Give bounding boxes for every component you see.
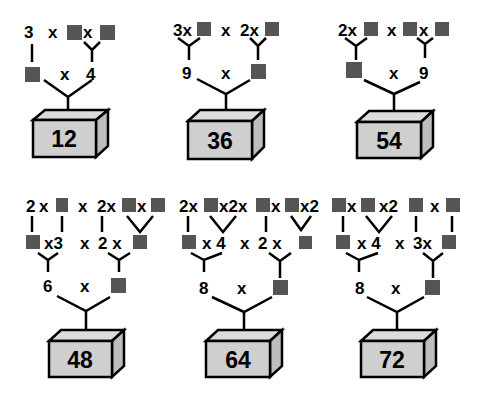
blank-square-icon[interactable] xyxy=(285,198,299,212)
times-sign: x xyxy=(387,21,397,40)
product-box: 64 xyxy=(206,330,282,377)
product-value: 72 xyxy=(379,347,405,373)
product-value: 48 xyxy=(67,347,93,373)
blank-square-icon[interactable] xyxy=(446,198,460,212)
branch-line xyxy=(108,253,130,272)
factor-2x: 2x xyxy=(240,21,259,40)
product-value: 64 xyxy=(225,347,251,373)
factor-2x: 2x xyxy=(338,21,357,40)
blank-square-icon[interactable] xyxy=(56,198,68,212)
blank-square-icon[interactable] xyxy=(299,236,312,249)
times-sign: x xyxy=(78,197,88,216)
blank-square-icon[interactable] xyxy=(251,64,266,79)
factor-2x: 2x xyxy=(179,197,198,216)
times-sign: x xyxy=(221,64,231,83)
branch-line xyxy=(345,38,367,60)
blank-square-icon[interactable] xyxy=(273,280,288,295)
times-sign: x xyxy=(240,234,250,253)
factor-x3: x3 xyxy=(44,234,63,253)
product-value: 36 xyxy=(207,128,233,154)
times-sign: x xyxy=(39,197,49,216)
times-sign: x xyxy=(389,64,399,83)
factor-6: 6 xyxy=(43,277,52,296)
times-sign: x xyxy=(271,197,281,216)
times-sign: x xyxy=(347,197,357,216)
blank-square-icon[interactable] xyxy=(25,67,40,82)
blank-square-icon[interactable] xyxy=(26,235,40,249)
factor-3x: 3x xyxy=(413,234,432,253)
times-sign: x xyxy=(221,21,231,40)
factor-tree-54: 2x x x x 9 54 xyxy=(338,21,449,158)
branch-line xyxy=(364,80,420,110)
factor-2x: 2 x xyxy=(258,234,282,253)
factor-8: 8 xyxy=(355,279,364,298)
blank-square-icon[interactable] xyxy=(435,22,449,36)
blank-square-icon[interactable] xyxy=(151,198,165,212)
blank-square-icon[interactable] xyxy=(133,235,147,249)
blank-square-icon[interactable] xyxy=(265,22,279,36)
branch-line xyxy=(44,80,92,112)
blank-square-icon[interactable] xyxy=(364,22,378,36)
product-box: 12 xyxy=(33,110,108,157)
product-value: 12 xyxy=(51,126,77,152)
branch-line xyxy=(191,253,222,272)
branch-line xyxy=(367,297,424,330)
branch-line xyxy=(417,38,433,58)
factor-tree-36: 3x x 2x 9 x 36 xyxy=(173,21,279,159)
blank-square-icon[interactable] xyxy=(425,280,440,295)
product-value: 54 xyxy=(376,128,402,154)
factor-3x: 3x xyxy=(173,21,192,40)
factor-x2: x2 xyxy=(300,197,319,216)
times-sign: x xyxy=(430,197,440,216)
factor-tree-12: 3 x x x 4 12 xyxy=(24,23,115,157)
branch-line xyxy=(178,38,200,60)
factor-2x: 2x xyxy=(97,197,116,216)
branch-line xyxy=(57,296,110,330)
product-box: 72 xyxy=(361,330,436,377)
factor-x4: x 4 xyxy=(202,234,226,253)
branch-line xyxy=(212,297,272,330)
factor-tree-worksheet: 3 x x x 4 12 3x x 2x 9 x xyxy=(0,0,481,396)
branch-line xyxy=(346,253,378,272)
factor-8: 8 xyxy=(199,279,208,298)
branch-line xyxy=(269,253,291,278)
blank-square-icon[interactable] xyxy=(100,25,115,40)
product-box: 54 xyxy=(357,111,433,158)
blank-square-icon[interactable] xyxy=(403,22,417,36)
factor-2: 2 xyxy=(26,197,35,216)
blank-square-icon[interactable] xyxy=(336,235,350,249)
branch-line xyxy=(84,42,100,62)
blank-square-icon[interactable] xyxy=(409,198,423,212)
product-box: 48 xyxy=(49,330,124,377)
times-sign: x xyxy=(60,65,70,84)
blank-square-icon[interactable] xyxy=(67,25,82,40)
blank-square-icon[interactable] xyxy=(182,235,196,249)
factor-3: 3 xyxy=(24,23,33,42)
blank-square-icon[interactable] xyxy=(197,22,211,36)
times-sign: x xyxy=(83,23,93,42)
times-sign: x xyxy=(237,279,247,298)
times-sign: x xyxy=(48,23,58,42)
factor-2x: 2 x xyxy=(98,234,122,253)
times-sign: x xyxy=(137,197,147,216)
branch-line xyxy=(250,38,266,60)
blank-square-icon[interactable] xyxy=(122,198,136,212)
blank-square-icon[interactable] xyxy=(256,198,270,212)
product-box: 36 xyxy=(188,110,264,159)
branch-line xyxy=(210,216,236,232)
blank-square-icon[interactable] xyxy=(442,235,456,249)
times-sign: x xyxy=(80,277,90,296)
blank-square-icon[interactable] xyxy=(111,278,126,293)
branch-line xyxy=(291,216,311,230)
blank-square-icon[interactable] xyxy=(332,198,346,212)
blank-square-icon[interactable] xyxy=(204,198,218,212)
branch-line xyxy=(38,253,58,272)
blank-square-icon[interactable] xyxy=(346,62,362,78)
times-sign: x xyxy=(391,279,401,298)
factor-9: 9 xyxy=(419,64,428,83)
times-sign: x xyxy=(395,234,405,253)
factor-tree-48: 2 x x 2x x x3 x 2 x 6 x 48 xyxy=(26,197,165,377)
times-sign: x xyxy=(80,234,90,253)
times-sign: x xyxy=(419,21,429,40)
blank-square-icon[interactable] xyxy=(361,198,375,212)
